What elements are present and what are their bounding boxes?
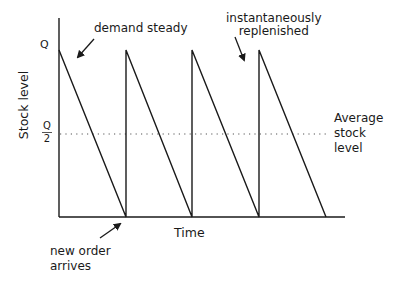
x-axis-title: Time xyxy=(174,225,205,240)
stock-level-sawtooth xyxy=(59,50,326,217)
annotation-avg-line3: level xyxy=(334,141,383,156)
new-order-arrow-icon xyxy=(100,224,120,238)
annotation-avg-line2: stock xyxy=(334,126,383,141)
annotation-avg-line1: Average xyxy=(334,111,383,126)
inventory-sawtooth-diagram: Stock level Time Q Q 2 demand steady ins… xyxy=(0,0,401,282)
y-tick-q-half: Q 2 xyxy=(42,121,52,144)
demand-arrow-icon xyxy=(78,39,94,57)
y-tick-q: Q xyxy=(40,38,49,51)
y-axis-title: Stock level xyxy=(16,71,31,139)
annotation-demand-steady: demand steady xyxy=(94,22,188,35)
annotation-inst-line2: replenished xyxy=(226,25,322,38)
y-tick-half-denominator: 2 xyxy=(42,133,52,144)
annotation-new-order-arrives: new order arrives xyxy=(50,244,111,274)
annotation-order-line1: new order xyxy=(50,244,111,259)
y-tick-half-numerator: Q xyxy=(42,121,52,133)
replenished-arrow-icon xyxy=(235,37,244,60)
annotation-instantaneously-replenished: instantaneously replenished xyxy=(226,12,322,38)
annotation-average-stock-level: Average stock level xyxy=(334,111,383,156)
annotation-order-line2: arrives xyxy=(50,259,111,274)
